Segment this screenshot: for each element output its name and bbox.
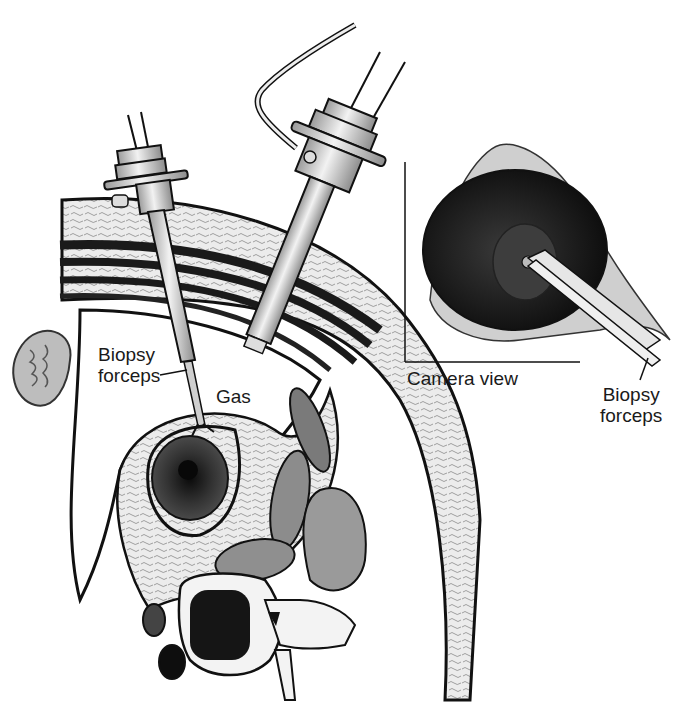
camera-view-inset [405,144,670,380]
vena-cava [159,645,185,679]
biopsy-forceps-label-inset-line2: forceps [600,405,662,426]
biopsy-forceps-label-main: Biopsy forceps [98,344,160,386]
vertebra [179,573,355,700]
biopsy-forceps-label-main-line2: forceps [98,365,160,386]
biopsy-forceps-label-inset: Biopsy forceps [600,384,662,426]
aorta [143,604,165,636]
biopsy-forceps-label-main-line1: Biopsy [98,344,160,365]
gas-label: Gas [216,386,251,407]
camera-view-label: Camera view [407,368,518,389]
kidney [13,331,70,406]
biopsy-forceps-label-inset-line1: Biopsy [600,384,662,405]
